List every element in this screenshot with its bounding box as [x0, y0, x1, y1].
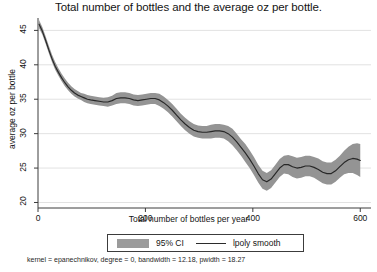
plot-area: [0, 14, 377, 228]
y-axis-title: average oz per bottle: [7, 49, 17, 169]
legend-entry-ci: 95% CI: [108, 235, 184, 251]
x-axis-title: Total number of bottles per year: [0, 214, 377, 224]
legend-label-ci: 95% CI: [156, 238, 184, 248]
chart-legend: 95% CI lpoly smooth: [107, 234, 304, 252]
y-tick-marks: [34, 30, 38, 202]
x-tick-marks: [38, 208, 360, 212]
chart-figure: Total number of bottles and the average …: [0, 0, 377, 272]
ci-band-swatch: [117, 239, 149, 248]
smooth-line-swatch: [196, 243, 226, 244]
chart-title: Total number of bottles and the average …: [0, 1, 377, 13]
y-tick-label: 35: [18, 87, 28, 109]
y-tick-label: 30: [18, 122, 28, 144]
confidence-interval-band: [39, 20, 360, 191]
y-tick-label: 45: [18, 18, 28, 40]
chart-note: kernel = epanechnikov, degree = 0, bandw…: [27, 256, 245, 263]
y-tick-label: 20: [18, 190, 28, 212]
legend-entry-smooth: lpoly smooth: [184, 235, 281, 251]
legend-label-smooth: lpoly smooth: [233, 238, 281, 248]
y-tick-label: 25: [18, 156, 28, 178]
y-tick-label: 40: [18, 53, 28, 75]
